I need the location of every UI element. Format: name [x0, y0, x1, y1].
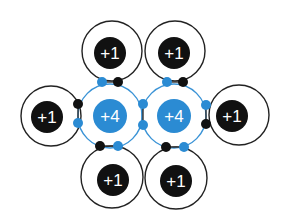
- carbon-electron: [73, 118, 83, 128]
- carbon-electron: [97, 77, 107, 87]
- nuclei: +1+1+1+1+1+1+4+4: [31, 37, 248, 197]
- carbon-right-label: +4: [164, 107, 183, 126]
- hydrogen-electron: [73, 99, 83, 109]
- hydrogen-electron: [113, 77, 123, 87]
- hydrogen-electron: [161, 142, 171, 152]
- carbon-electron: [201, 100, 211, 110]
- carbon-left-label: +4: [100, 107, 119, 126]
- hydrogen-top-right-label: +1: [164, 44, 183, 63]
- carbon-electron: [179, 142, 189, 152]
- hydrogen-bottom-left-label: +1: [103, 171, 122, 190]
- carbon-electron: [113, 141, 123, 151]
- carbon-electron: [138, 99, 148, 109]
- ethane-electron-diagram: +1+1+1+1+1+1+4+4: [0, 0, 281, 219]
- hydrogen-left-label: +1: [37, 108, 56, 127]
- hydrogen-bottom-right-label: +1: [166, 172, 185, 191]
- hydrogen-electron: [201, 119, 211, 129]
- carbon-electron: [162, 77, 172, 87]
- hydrogen-electron: [95, 141, 105, 151]
- hydrogen-top-left-label: +1: [100, 44, 119, 63]
- hydrogen-right-label: +1: [222, 107, 241, 126]
- hydrogen-electron: [178, 77, 188, 87]
- carbon-electron: [138, 120, 148, 130]
